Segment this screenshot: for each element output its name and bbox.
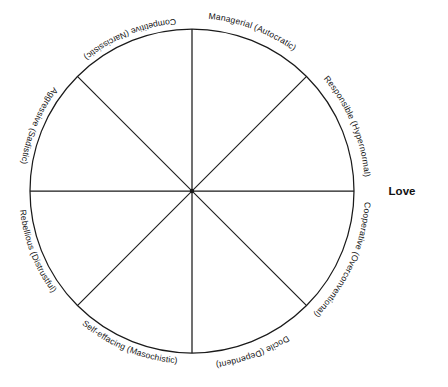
segment-label-self-effacing-text: Self-effacing (Masochistic) [80, 318, 178, 365]
segment-label-aggressive-text: Aggressive (Sadistic) [19, 86, 60, 165]
center-point [190, 189, 194, 193]
segment-label-cooperative-text: Cooperative (Overconventional) [312, 202, 373, 320]
segment-label-cooperative: Cooperative (Overconventional) [312, 202, 373, 320]
axis-label-love: Love [389, 185, 416, 197]
segment-label-competitive: Competitive (Narcissistic) [82, 17, 176, 63]
segment-label-docile-text: Docile (Dependent) [215, 334, 291, 370]
segment-label-rebellious: Rebellious (Distrustful) [18, 209, 59, 294]
segment-label-self-effacing: Self-effacing (Masochistic) [80, 318, 178, 365]
segment-label-aggressive: Aggressive (Sadistic) [19, 86, 60, 165]
segment-label-responsible: Responsible (Hypernormal) [322, 74, 372, 178]
circumplex-figure: Managerial (Autocratic) Responsible (Hyp… [0, 0, 448, 387]
segment-label-docile: Docile (Dependent) [215, 334, 291, 370]
segment-label-rebellious-text: Rebellious (Distrustful) [18, 209, 59, 294]
segment-label-competitive-text: Competitive (Narcissistic) [82, 17, 176, 63]
segment-label-responsible-text: Responsible (Hypernormal) [322, 74, 372, 178]
